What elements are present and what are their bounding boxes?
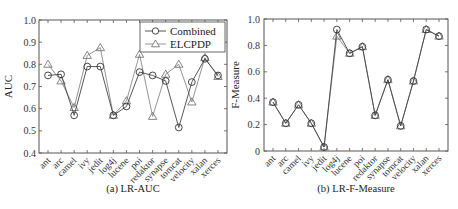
chart-caption: (a) LR-AUC <box>106 183 159 195</box>
y-tick-label: 1.0 <box>248 14 261 25</box>
y-tick-label: 0.6 <box>248 66 261 77</box>
y-tick-label: 1.0 <box>24 15 37 26</box>
series-line-elcpdp <box>48 48 218 117</box>
legend-marker-circle <box>152 28 158 34</box>
series-line-elcpdp <box>273 30 439 147</box>
data-point-elcpdp <box>161 70 169 77</box>
y-tick-label: 0.4 <box>24 148 37 159</box>
data-point-elcpdp <box>44 60 52 67</box>
y-tick-label: 0.8 <box>248 40 261 51</box>
y-axis-title: AUC <box>2 75 14 98</box>
chart-caption: (b) LR-F-Measure <box>317 183 395 195</box>
y-tick-label: 0.4 <box>248 93 261 104</box>
data-point-elcpdp <box>83 51 91 58</box>
y-tick-label: 0.2 <box>248 119 261 130</box>
y-tick-label: 0 <box>255 146 260 157</box>
series-line-combined <box>48 59 218 128</box>
legend-label: ELCPDP <box>170 38 211 50</box>
legend-label: Combined <box>170 25 216 37</box>
y-tick-label: 0.9 <box>24 37 37 48</box>
y-tick-label: 0.6 <box>24 103 37 114</box>
plot-frame <box>264 19 448 151</box>
y-tick-label: 0.8 <box>24 59 37 70</box>
chart-f-measure: 00.20.40.60.81.0antarccamelivyjeditlog4j… <box>229 14 448 196</box>
y-axis-title: F-Measure <box>229 61 241 109</box>
legend: CombinedELCPDP <box>140 22 225 52</box>
chart-auc: 0.40.50.60.70.80.91.0antarccamelivyjedit… <box>2 15 227 196</box>
y-tick-label: 0.5 <box>24 125 37 136</box>
figure: 0.40.50.60.70.80.91.0antarccamelivyjedit… <box>0 0 458 209</box>
y-tick-label: 0.7 <box>24 81 37 92</box>
series-line-combined <box>273 30 439 147</box>
